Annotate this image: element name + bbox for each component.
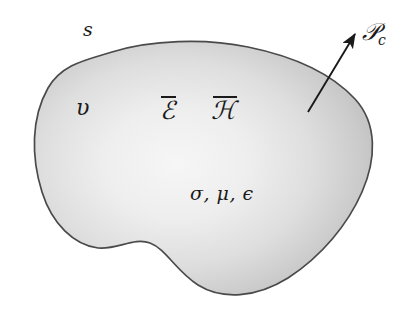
diagram-canvas [0,0,417,315]
volume-label: υ [76,97,89,119]
magnetic-field-overbar: ℋ [211,96,236,123]
complex-power-label: 𝒫c [362,20,386,47]
volume-blob-shape [34,41,372,294]
complex-power-subscript: c [378,32,386,48]
electric-field-label: ℰ [160,96,175,123]
surface-label: s [83,20,93,39]
electric-field-overbar: ℰ [160,96,175,123]
electromagnetic-volume-diagram: s υ ℰ ℋ σ, μ, ϵ 𝒫c [0,0,417,315]
complex-power-symbol: 𝒫 [362,18,379,46]
magnetic-field-label: ℋ [211,96,236,123]
material-parameters-label: σ, μ, ϵ [190,184,254,203]
